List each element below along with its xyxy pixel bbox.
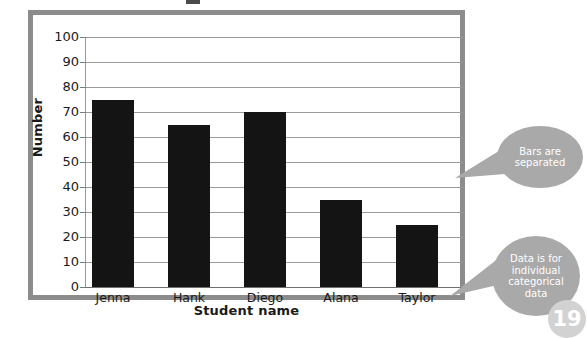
- y-tick-label: 0: [41, 280, 79, 293]
- callout-1-line-1: Bars are: [519, 146, 561, 157]
- y-axis-title: Number: [30, 83, 45, 173]
- y-tick-label: 70: [41, 105, 79, 118]
- y-tick-label: 60: [41, 130, 79, 143]
- y-tick-label: 50: [41, 155, 79, 168]
- plot-area: 100 90 80 70 60 50 40 30 20 10 0 Jenna H…: [33, 15, 460, 295]
- callout-2-line-4: data: [525, 288, 548, 299]
- callout-2-line-1: Data is for: [510, 253, 562, 264]
- bar-hank: [168, 125, 210, 288]
- y-tick-label: 100: [41, 30, 79, 43]
- callout-2-line-2: individual: [512, 265, 561, 276]
- bar-diego: [244, 112, 286, 287]
- chart-frame: 100 90 80 70 60 50 40 30 20 10 0 Jenna H…: [28, 10, 465, 300]
- y-tick-label: 30: [41, 205, 79, 218]
- y-tick-label: 90: [41, 55, 79, 68]
- y-tick-60: 60: [39, 137, 79, 138]
- y-tick-mark-30: [80, 212, 86, 213]
- x-axis-title: Student name: [28, 303, 465, 318]
- y-tick-label: 80: [41, 80, 79, 93]
- page-number-badge: 19: [548, 300, 586, 338]
- y-tick-10: 10: [39, 262, 79, 263]
- y-tick-40: 40: [39, 187, 79, 188]
- y-tick-label: 10: [41, 255, 79, 268]
- y-tick-90: 90: [39, 62, 79, 63]
- y-tick-mark-50: [80, 162, 86, 163]
- y-tick-mark-80: [80, 87, 86, 88]
- x-axis-line: [85, 287, 463, 288]
- callout-bars-are-separated: Bars are separated: [497, 126, 583, 188]
- cropped-title-remnant: [186, 0, 200, 4]
- y-tick-label: 40: [41, 180, 79, 193]
- y-tick-50: 50: [39, 162, 79, 163]
- callout-1-line-2: separated: [515, 157, 566, 168]
- y-tick-80: 80: [39, 87, 79, 88]
- bar-jenna: [92, 100, 134, 288]
- y-tick-mark-40: [80, 187, 86, 188]
- callout-2-text: Data is for individual categorical data: [508, 253, 563, 299]
- y-tick-label: 20: [41, 230, 79, 243]
- callout-1-text: Bars are separated: [515, 146, 566, 169]
- y-tick-70: 70: [39, 112, 79, 113]
- y-tick-mark-60: [80, 137, 86, 138]
- y-tick-30: 30: [39, 212, 79, 213]
- y-tick-20: 20: [39, 237, 79, 238]
- y-tick-100: 100: [39, 37, 79, 38]
- gridline-90: [85, 62, 463, 63]
- y-tick-0: 0: [39, 287, 79, 288]
- y-tick-mark-10: [80, 262, 86, 263]
- y-tick-mark-90: [80, 62, 86, 63]
- gridline-80: [85, 87, 463, 88]
- y-tick-mark-100: [80, 37, 86, 38]
- y-tick-mark-20: [80, 237, 86, 238]
- bar-alana: [320, 200, 362, 288]
- y-tick-mark-70: [80, 112, 86, 113]
- callout-2-line-3: categorical: [508, 276, 563, 287]
- bar-taylor: [396, 225, 438, 288]
- gridline-100: [85, 37, 463, 38]
